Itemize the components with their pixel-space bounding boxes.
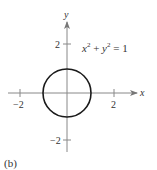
eq-equals: = 1 (111, 42, 128, 54)
y-tick-label-neg2: −2 (50, 135, 61, 146)
x-tick-label-2: 2 (111, 99, 116, 110)
chart-canvas: x y −2 2 2 −2 x2 + y2 = 1 (b) (0, 0, 157, 170)
eq-plus: + (90, 42, 102, 54)
y-tick-label-2: 2 (55, 39, 60, 50)
x-axis-label: x (139, 87, 145, 98)
y-axis-label: y (63, 9, 69, 20)
figure-caption: (b) (4, 157, 17, 170)
x-tick-label-neg2: −2 (13, 99, 24, 110)
equation-annotation: x2 + y2 = 1 (81, 41, 128, 54)
